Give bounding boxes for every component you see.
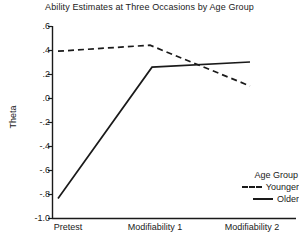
legend-item-younger: Younger	[214, 181, 299, 193]
legend: Age Group Younger Older	[214, 170, 299, 205]
legend-title: Age Group	[214, 170, 299, 181]
chart-container: Ability Estimates at Three Occasions by …	[0, 0, 299, 239]
x-tick-label-modifiability-1: Modifiability 1	[110, 222, 200, 232]
series-line-younger	[58, 45, 250, 86]
legend-item-older: Older	[214, 193, 299, 205]
legend-swatch-dashed-icon	[242, 186, 262, 188]
legend-label-younger: Younger	[266, 182, 299, 193]
y-tick-marks	[48, 27, 52, 219]
legend-swatch-solid-icon	[253, 198, 273, 200]
legend-label-older: Older	[277, 194, 299, 205]
x-tick-label-modifiability-2: Modifiability 2	[207, 222, 297, 232]
x-tick-label-pretest: Pretest	[38, 222, 98, 232]
